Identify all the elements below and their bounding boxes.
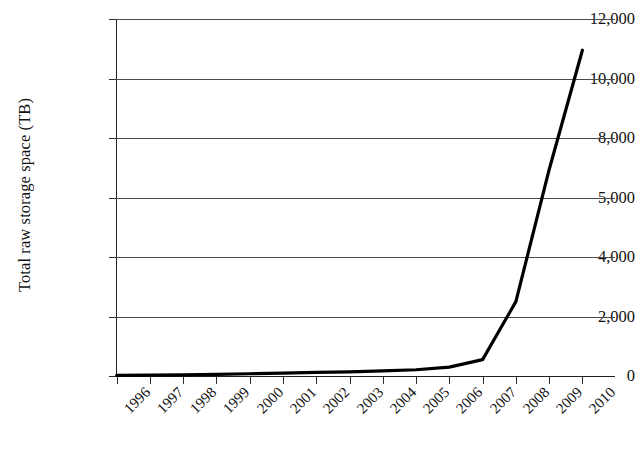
x-axis-tick-label: 2002	[320, 384, 353, 417]
x-axis-tick-mark	[483, 377, 484, 384]
x-axis-ticks: 1996199719981999200020012002200320042005…	[0, 0, 635, 453]
x-axis-tick-mark	[216, 377, 217, 384]
x-axis-tick-mark	[549, 377, 550, 384]
x-axis-tick-label: 2008	[520, 384, 553, 417]
x-axis-tick-mark	[283, 377, 284, 384]
x-axis-tick-label: 2010	[586, 384, 619, 417]
x-axis-tick-mark	[350, 377, 351, 384]
x-axis-tick-mark	[516, 377, 517, 384]
x-axis-tick-label: 2009	[553, 384, 586, 417]
x-axis-tick-mark	[250, 377, 251, 384]
x-axis-tick-mark	[183, 377, 184, 384]
x-axis-tick-label: 2000	[254, 384, 287, 417]
x-axis-tick-label: 2003	[353, 384, 386, 417]
x-axis-tick-label: 1998	[187, 384, 220, 417]
x-axis-tick-mark	[383, 377, 384, 384]
x-axis-tick-mark	[117, 377, 118, 384]
x-axis-tick-label: 2005	[420, 384, 453, 417]
chart-figure: Total raw storage space (TB) 02,0004,000…	[0, 0, 635, 453]
x-axis-tick-label: 1996	[120, 384, 153, 417]
x-axis-tick-label: 2004	[387, 384, 420, 417]
x-axis-tick-mark	[150, 377, 151, 384]
x-axis-tick-label: 2001	[287, 384, 320, 417]
x-axis-tick-label: 2007	[486, 384, 519, 417]
x-axis-tick-mark	[416, 377, 417, 384]
x-axis-tick-mark	[316, 377, 317, 384]
x-axis-tick-label: 1997	[154, 384, 187, 417]
x-axis-tick-label: 2006	[453, 384, 486, 417]
x-axis-tick-label: 1999	[220, 384, 253, 417]
x-axis-tick-mark	[449, 377, 450, 384]
x-axis-tick-mark	[582, 377, 583, 384]
